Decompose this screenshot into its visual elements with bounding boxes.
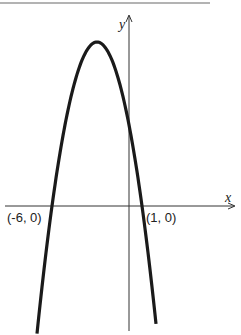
y-axis-label: y — [117, 17, 126, 32]
parabola-graph: x y (-6, 0) (1, 0) — [0, 0, 241, 335]
x-axis-label: x — [224, 190, 232, 205]
parabola-curve — [37, 42, 156, 334]
left-intercept-label: (-6, 0) — [7, 210, 42, 225]
right-intercept-label: (1, 0) — [146, 210, 176, 225]
